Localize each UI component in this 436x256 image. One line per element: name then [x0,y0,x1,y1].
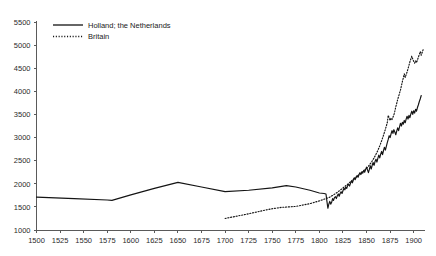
x-axis-tick-label: 1725 [240,236,257,245]
x-axis-tick-label: 1600 [122,236,139,245]
y-axis-tick-label: 5000 [14,41,31,50]
y-axis-tick-label: 3500 [14,110,31,119]
x-axis-tick-label: 1875 [382,236,399,245]
line-chart: 1000150020002500300035004000450050005500… [0,0,436,256]
y-axis-tick-label: 1000 [14,226,31,235]
x-axis-tick-label: 1500 [28,236,45,245]
x-axis-tick-label: 1625 [146,236,163,245]
x-axis-tick-label: 1850 [358,236,375,245]
y-axis-tick-label: 5500 [14,18,31,27]
x-axis-tick-label: 1800 [311,236,328,245]
y-axis-tick-label: 2000 [14,180,31,189]
x-axis-tick-label: 1675 [193,236,210,245]
x-axis-tick-label: 1825 [335,236,352,245]
chart-container: 1000150020002500300035004000450050005500… [0,0,436,256]
x-axis-tick-label: 1900 [405,236,422,245]
x-axis-tick-label: 1650 [170,236,187,245]
legend-label: Britain [88,32,109,41]
series-line-1 [37,95,422,208]
x-axis-tick-label: 1525 [52,236,69,245]
y-axis-tick-label: 3000 [14,133,31,142]
y-axis-tick-label: 4000 [14,87,31,96]
legend-label: Holland; the Netherlands [88,21,171,30]
series-group [37,50,424,219]
x-axis-tick-label: 1550 [75,236,92,245]
y-axis-tick-group: 1000150020002500300035004000450050005500 [14,18,37,235]
y-axis-tick-label: 2500 [14,156,31,165]
x-axis-tick-label: 1700 [217,236,234,245]
x-axis-tick-label: 1575 [99,236,116,245]
chart-legend: Holland; the NetherlandsBritain [53,21,171,42]
x-axis-tick-label: 1775 [287,236,304,245]
y-axis-tick-label: 1500 [14,203,31,212]
x-axis-tick-group: 1500152515501575160016251650167517001725… [28,230,422,245]
x-axis-tick-label: 1750 [264,236,281,245]
y-axis-tick-label: 4500 [14,64,31,73]
